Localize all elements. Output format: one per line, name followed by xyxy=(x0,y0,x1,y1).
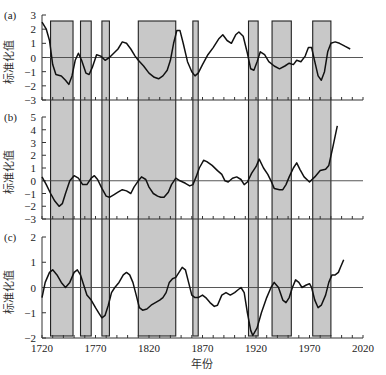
x-axis: 1720177018201870192019702020 xyxy=(31,335,375,354)
y-tick-label: 2 xyxy=(31,23,37,35)
x-axis-label: 年份 xyxy=(191,357,213,371)
y-tick-label: 3 xyxy=(31,137,37,149)
y-tick-label: 2 xyxy=(31,149,37,161)
y-tick-label: −1 xyxy=(24,66,36,78)
y-tick-label: 0 xyxy=(31,52,37,64)
y-tick-label: 0 xyxy=(31,282,37,294)
x-tick-label: 1720 xyxy=(31,342,54,354)
y-tick-label: 3 xyxy=(31,9,37,21)
y-tick-label: −2 xyxy=(24,200,36,212)
y-tick-label: 2 xyxy=(31,231,37,243)
x-tick-label: 1970 xyxy=(299,342,322,354)
y-tick-label: 1 xyxy=(31,162,37,174)
y-tick-label: −1 xyxy=(24,188,36,200)
y-tick-label: 1 xyxy=(31,256,37,268)
x-tick-label: 1920 xyxy=(245,342,268,354)
figure: 3210−1−2−3(a)标准化值 543210−1−2−3(b)标准化值 21… xyxy=(0,0,386,375)
y-tick-label: 1 xyxy=(31,37,37,49)
x-tick-label: 1870 xyxy=(192,342,215,354)
y-tick-label: 5 xyxy=(31,111,37,123)
shaded-period xyxy=(102,21,109,336)
shaded-period xyxy=(81,21,92,336)
x-tick-label: 2020 xyxy=(352,342,375,354)
y-tick-label: −3 xyxy=(24,213,36,225)
shaded-period xyxy=(313,21,331,336)
y-axis-label: 标准化值 xyxy=(2,270,16,314)
y-tick-label: 4 xyxy=(31,124,37,136)
panel-label: (a) xyxy=(4,9,17,22)
x-tick-label: 1770 xyxy=(85,342,108,354)
y-tick-label: −1 xyxy=(24,307,36,319)
x-tick-label: 1820 xyxy=(138,342,161,354)
y-axis-label: 标准化值 xyxy=(2,150,16,194)
y-tick-label: −2 xyxy=(24,80,36,92)
y-axis-label: 标准化值 xyxy=(2,40,16,84)
panel-label: (c) xyxy=(4,231,17,244)
y-tick-label: −3 xyxy=(24,94,36,106)
panel-label: (b) xyxy=(4,111,17,124)
y-tick-label: 0 xyxy=(31,175,37,187)
